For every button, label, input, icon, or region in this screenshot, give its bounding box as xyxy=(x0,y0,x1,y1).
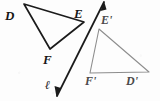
vertex-label-d-prime: D' xyxy=(126,75,138,87)
triangle-d-prime-e-prime-f-prime xyxy=(90,29,149,73)
vertex-label-f: F xyxy=(43,53,52,66)
vertex-label-f-prime: F' xyxy=(85,75,96,87)
line-label-l: ℓ xyxy=(45,79,50,91)
vertex-label-e-prime: E' xyxy=(101,14,112,26)
vertex-label-e: E xyxy=(74,7,83,20)
vertex-label-d: D xyxy=(5,9,14,22)
geometry-figure: D E F E' F' D' ℓ xyxy=(0,0,160,101)
